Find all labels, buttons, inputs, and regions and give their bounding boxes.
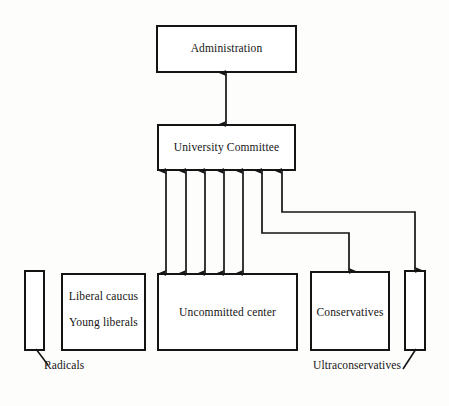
callout-label-ultraconservatives: Ultraconservatives <box>313 359 401 371</box>
node-box-radicals[interactable] <box>25 271 44 350</box>
node-label-conservatives: Conservatives <box>311 306 389 319</box>
connector-arrows <box>166 73 415 273</box>
node-label-university-committee: University Committee <box>158 141 295 154</box>
node-box-ultraconservatives[interactable] <box>405 271 425 350</box>
node-label-uncommitted-center: Uncommitted center <box>158 306 297 319</box>
node-label-young-liberals: Young liberals <box>62 316 145 329</box>
diagram-svg <box>0 0 449 406</box>
node-label-administration: Administration <box>157 42 296 55</box>
ultraconservatives-leader-line <box>403 349 416 369</box>
node-box-liberal-caucus[interactable] <box>62 274 145 350</box>
diagram-canvas: Administration University Committee Libe… <box>0 0 449 406</box>
node-label-liberal-caucus: Liberal caucus <box>62 290 145 303</box>
callout-label-radicals: Radicals <box>44 359 84 371</box>
arrow-committee-conservatives <box>262 171 349 271</box>
